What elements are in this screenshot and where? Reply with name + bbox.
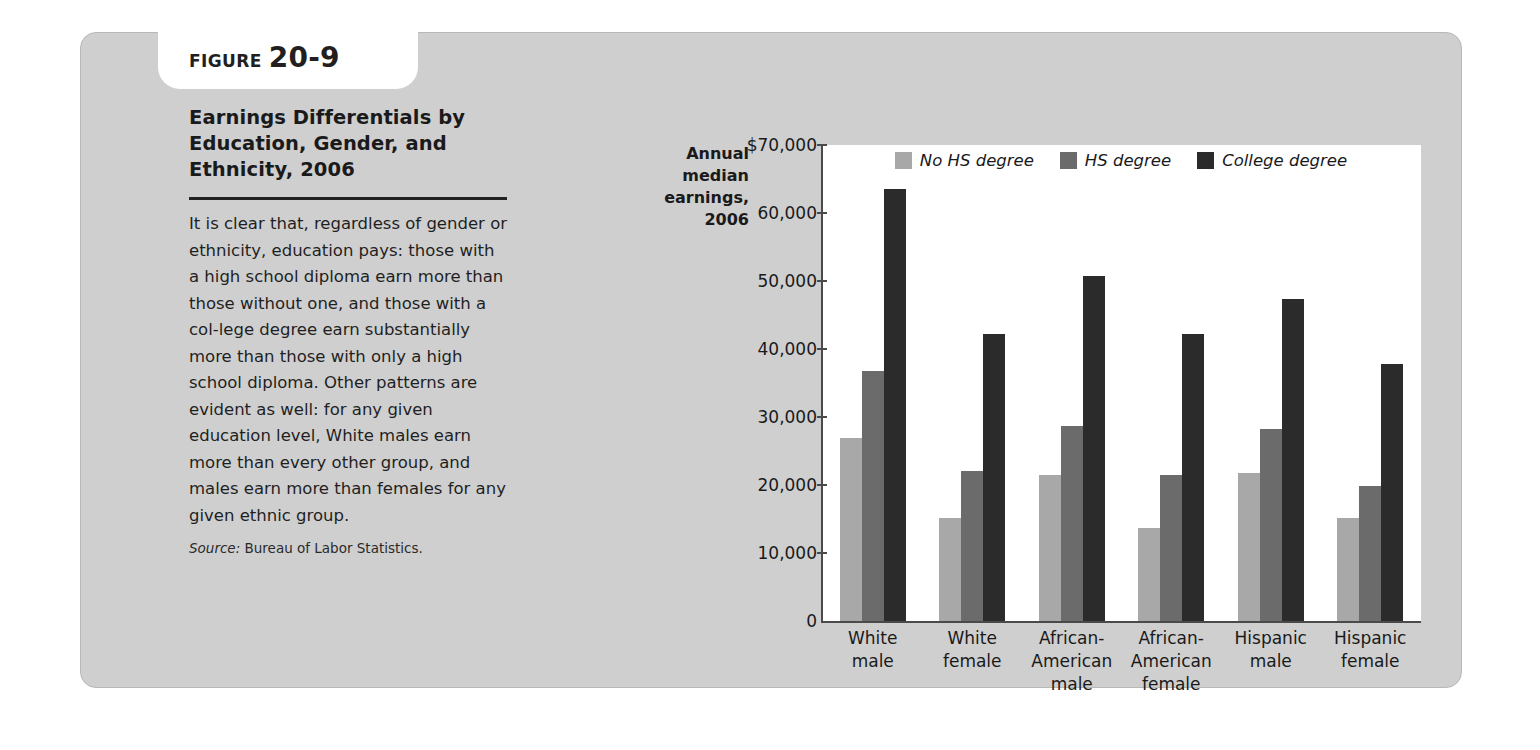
figure-number: 20-9: [269, 41, 340, 74]
x-axis-label-line: American: [1122, 650, 1222, 673]
y-axis-ticks: $70,00060,00050,00040,00030,00020,00010,…: [707, 145, 817, 623]
bar-group: [1039, 145, 1105, 621]
bar-group: [1138, 145, 1204, 621]
x-axis-labels: WhitemaleWhitefemaleAfrican-Americanmale…: [823, 627, 1420, 687]
x-axis-label-line: American: [1022, 650, 1122, 673]
y-tick-label: 60,000: [721, 203, 817, 223]
x-axis-label: Whitemale: [823, 627, 923, 673]
source-label: Source:: [189, 540, 240, 556]
bar[interactable]: [1359, 486, 1381, 621]
x-axis-label: Hispanicfemale: [1321, 627, 1421, 673]
x-axis-label-line: female: [1321, 650, 1421, 673]
figure-source: Source: Bureau of Labor Statistics.: [189, 540, 509, 556]
x-axis-label-line: Hispanic: [1321, 627, 1421, 650]
y-tick-label: 20,000: [721, 475, 817, 495]
x-axis-label-line: female: [1122, 673, 1222, 696]
bar[interactable]: [884, 189, 906, 621]
figure-word: FIGURE: [189, 51, 262, 71]
chart-container: Annual median earnings, 2006 $70,00060,0…: [641, 111, 1431, 681]
x-axis-label-line: African-: [1022, 627, 1122, 650]
bar[interactable]: [1061, 426, 1083, 621]
figure-title: Earnings Differentials by Education, Gen…: [189, 105, 509, 183]
bar[interactable]: [1282, 299, 1304, 621]
x-axis-label-line: African-: [1122, 627, 1222, 650]
x-axis-label: Hispanicmale: [1221, 627, 1321, 673]
title-divider: [189, 197, 507, 200]
x-axis-label-line: female: [923, 650, 1023, 673]
bar[interactable]: [862, 371, 884, 621]
figure-body-text: It is clear that, regardless of gender o…: [189, 211, 509, 529]
bar[interactable]: [961, 471, 983, 621]
bar[interactable]: [1160, 475, 1182, 621]
bar[interactable]: [983, 334, 1005, 621]
x-axis-label-line: male: [1022, 673, 1122, 696]
bar[interactable]: [840, 438, 862, 621]
bar[interactable]: [1260, 429, 1282, 621]
bar[interactable]: [1138, 528, 1160, 621]
y-tick-label: 10,000: [721, 543, 817, 563]
x-axis-label-line: male: [823, 650, 923, 673]
source-text: Bureau of Labor Statistics.: [245, 540, 423, 556]
figure-panel: FIGURE20-9 Earnings Differentials by Edu…: [80, 32, 1462, 688]
y-tick-label: 30,000: [721, 407, 817, 427]
figure-number-label: FIGURE20-9: [189, 41, 409, 74]
y-tick-label: 50,000: [721, 271, 817, 291]
bar[interactable]: [1337, 518, 1359, 621]
bar[interactable]: [1381, 364, 1403, 621]
bar[interactable]: [939, 518, 961, 621]
bar-group: [1238, 145, 1304, 621]
bar-group: [939, 145, 1005, 621]
figure-caption-column: Earnings Differentials by Education, Gen…: [189, 105, 509, 556]
x-axis-label-line: White: [823, 627, 923, 650]
x-axis-label: Whitefemale: [923, 627, 1023, 673]
bar-group: [1337, 145, 1403, 621]
bar[interactable]: [1083, 276, 1105, 621]
x-axis-label-line: male: [1221, 650, 1321, 673]
bar-group: [840, 145, 906, 621]
x-axis-label: African-Americanfemale: [1122, 627, 1222, 696]
x-axis-label-line: White: [923, 627, 1023, 650]
bar[interactable]: [1238, 473, 1260, 621]
y-tick-label: 40,000: [721, 339, 817, 359]
x-axis-label-line: Hispanic: [1221, 627, 1321, 650]
x-axis-label: African-Americanmale: [1022, 627, 1122, 696]
y-tick-label: 0: [721, 611, 817, 631]
bar[interactable]: [1039, 475, 1061, 621]
bar[interactable]: [1182, 334, 1204, 621]
y-tick-label: $70,000: [721, 135, 817, 155]
bars-layer: [823, 145, 1420, 621]
